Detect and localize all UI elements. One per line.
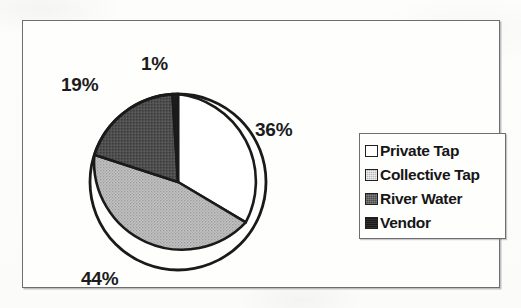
legend-swatch-collective-tap (365, 169, 378, 181)
pie-chart-screenshot: 1% 19% 36% 44% Private Tap Collective Ta… (0, 0, 521, 308)
legend-label-vendor: Vendor (380, 215, 431, 231)
legend-swatch-private-tap (365, 145, 378, 157)
legend-label-collective-tap: Collective Tap (380, 167, 480, 183)
legend-item-collective-tap: Collective Tap (365, 163, 505, 187)
pie-chart (88, 92, 268, 272)
pie-label-vendor: 1% (141, 53, 168, 75)
legend-swatch-river-water (365, 193, 378, 205)
chart-legend: Private Tap Collective Tap River Water V… (359, 133, 506, 239)
pie-label-collective-tap: 44% (81, 268, 118, 290)
pie-svg (88, 92, 268, 272)
legend-label-private-tap: Private Tap (380, 143, 459, 159)
legend-item-private-tap: Private Tap (365, 139, 505, 163)
legend-label-river-water: River Water (380, 191, 462, 207)
pie-label-river-water: 19% (61, 74, 98, 96)
chart-frame-border: 1% 19% 36% 44% Private Tap Collective Ta… (22, 20, 500, 288)
legend-item-river-water: River Water (365, 187, 505, 211)
legend-swatch-vendor (365, 217, 378, 229)
legend-item-vendor: Vendor (365, 211, 505, 235)
pie-label-private-tap: 36% (255, 119, 292, 141)
